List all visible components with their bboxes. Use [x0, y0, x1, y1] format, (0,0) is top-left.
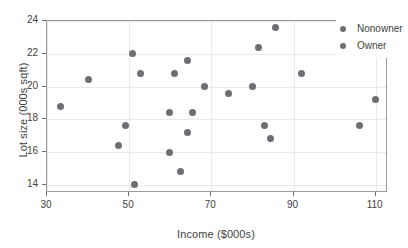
legend-item-nonowner[interactable]: Nonowner [340, 20, 406, 37]
data-point [356, 122, 363, 129]
x-tick-label: 90 [278, 199, 308, 210]
legend: NonownerOwner [336, 16, 408, 58]
data-point [166, 109, 173, 116]
x-tick-mark [46, 192, 47, 196]
x-tick-mark [375, 192, 376, 196]
legend-item-owner[interactable]: Owner [340, 37, 406, 54]
data-point [298, 70, 305, 77]
data-point [115, 142, 122, 149]
data-point [85, 76, 92, 83]
gridline-vertical [129, 21, 130, 191]
data-point [184, 129, 191, 136]
legend-label: Owner [357, 40, 386, 51]
data-point [255, 44, 262, 51]
x-tick-label: 50 [113, 199, 143, 210]
x-axis-title: Income ($000s) [46, 228, 386, 240]
gridline-vertical [47, 21, 48, 191]
gridline-horizontal [47, 87, 386, 88]
data-point [249, 83, 256, 90]
y-tick-label: 24 [14, 14, 38, 25]
data-point [129, 50, 136, 57]
y-tick-label: 16 [14, 145, 38, 156]
data-point [272, 24, 279, 31]
y-tick-label: 18 [14, 112, 38, 123]
gridline-vertical [211, 21, 212, 191]
x-tick-label: 70 [195, 199, 225, 210]
x-tick-label: 110 [360, 199, 390, 210]
data-point [177, 168, 184, 175]
y-tick-label: 22 [14, 47, 38, 58]
y-tick-label: 20 [14, 80, 38, 91]
data-point [171, 70, 178, 77]
scatter-chart: Lot size (000s sqft) Income ($000s) 1416… [0, 0, 408, 248]
data-point [372, 96, 379, 103]
data-point [137, 70, 144, 77]
legend-label: Nonowner [357, 23, 403, 34]
data-point [57, 103, 64, 110]
data-point [201, 83, 208, 90]
data-point [225, 90, 232, 97]
gridline-vertical [294, 21, 295, 191]
x-tick-mark [293, 192, 294, 196]
data-point [267, 135, 274, 142]
data-point [184, 57, 191, 64]
data-point [131, 181, 138, 188]
gridline-horizontal [47, 185, 386, 186]
x-tick-mark [128, 192, 129, 196]
data-point [189, 109, 196, 116]
data-point [166, 149, 173, 156]
legend-marker-icon [340, 26, 346, 32]
data-point [261, 122, 268, 129]
gridline-horizontal [47, 119, 386, 120]
gridline-horizontal [47, 152, 386, 153]
x-tick-mark [210, 192, 211, 196]
y-tick-label: 14 [14, 178, 38, 189]
legend-marker-icon [340, 43, 346, 49]
x-tick-label: 30 [31, 199, 61, 210]
